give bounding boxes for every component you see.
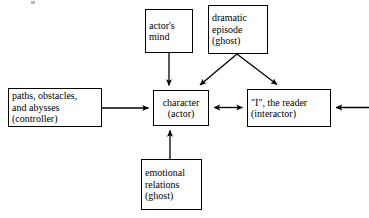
node-character-actor-line-2: (actor) [154, 108, 208, 120]
node-paths-obstacles-line-3: (controller) [12, 113, 101, 125]
node-dramatic-episode-line-3: (ghost) [212, 35, 267, 47]
node-actors-mind-line-1: actor's [149, 20, 192, 32]
diagram-canvas: actor's mind dramatic episode (ghost) pa… [0, 0, 369, 218]
node-dramatic-episode-line-1: dramatic [212, 12, 267, 24]
node-dramatic-episode-line-2: episode [212, 24, 267, 36]
node-emotional-relations-line-2: relations [145, 179, 201, 191]
node-reader-interactor-line-1: "I", the reader [251, 97, 330, 109]
edge-dramatic-episode-to-character [200, 54, 237, 85]
node-emotional-relations[interactable]: emotional relations (ghost) [141, 159, 202, 210]
node-reader-interactor-line-2: (interactor) [251, 108, 330, 120]
node-character-actor[interactable]: character (actor) [153, 90, 209, 126]
node-paths-obstacles-line-2: and abysses [12, 102, 101, 114]
node-actors-mind[interactable]: actor's mind [145, 9, 193, 53]
edge-dramatic-episode-to-reader [237, 54, 277, 85]
node-reader-interactor[interactable]: "I", the reader (interactor) [247, 89, 331, 127]
node-dramatic-episode[interactable]: dramatic episode (ghost) [208, 5, 268, 54]
node-paths-obstacles[interactable]: paths, obstacles, and abysses (controlle… [8, 88, 102, 127]
scan-artifact-speck [31, 1, 35, 4]
node-character-actor-line-1: character [154, 97, 208, 109]
node-actors-mind-line-2: mind [149, 31, 192, 43]
node-emotional-relations-line-1: emotional [145, 167, 201, 179]
node-emotional-relations-line-3: (ghost) [145, 190, 201, 202]
node-paths-obstacles-line-1: paths, obstacles, [12, 90, 101, 102]
